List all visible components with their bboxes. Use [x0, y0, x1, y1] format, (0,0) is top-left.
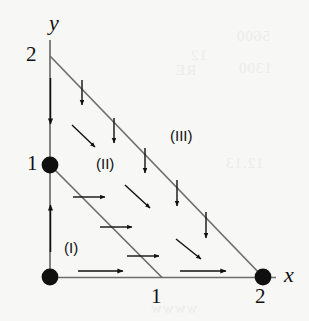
- x-axis-label: x: [284, 264, 294, 286]
- region-label-ii: (II): [96, 156, 114, 171]
- direction-field-plot: [0, 0, 309, 321]
- arrow-region-ii-2: [125, 185, 150, 208]
- region-label-i: (I): [64, 240, 78, 255]
- y-tick-label-1: 1: [27, 153, 38, 174]
- inner-diagonal-line: [50, 165, 162, 278]
- equilibrium-point-origin: [42, 269, 59, 286]
- arrow-region-iii-1: [176, 239, 201, 259]
- x-tick-label-1: 1: [151, 286, 162, 307]
- region-label-iii: (III): [170, 128, 193, 143]
- axis-lines: [50, 40, 276, 278]
- figure-canvas: 5600 1300 12 RE 12.13 wwww: [0, 0, 309, 321]
- y-axis-label: y: [49, 12, 59, 34]
- equilibrium-point-group: [42, 157, 272, 286]
- arrow-region-ii-1: [72, 125, 95, 147]
- equilibrium-point-2-0: [255, 269, 272, 286]
- x-tick-label-2: 2: [255, 286, 266, 307]
- equilibrium-point-0-1: [42, 157, 59, 174]
- arrow-group-inner-diagonal: [73, 197, 159, 256]
- y-tick-label-2: 2: [26, 44, 37, 65]
